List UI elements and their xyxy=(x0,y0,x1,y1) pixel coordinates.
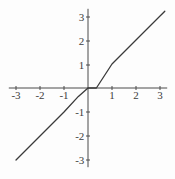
y-tick-label: -1 xyxy=(75,107,84,118)
y-tick-label: -2 xyxy=(75,131,84,142)
curve-y-equals-x xyxy=(16,11,165,160)
y-tick-label: 3 xyxy=(79,12,84,23)
y-tick-label: 2 xyxy=(79,36,84,47)
x-tick-label: 3 xyxy=(157,90,162,101)
x-tick-label: -3 xyxy=(12,90,21,101)
graph-figure: -3 -2 -1 1 2 3 3 2 1 -1 -2 -3 xyxy=(0,0,175,179)
x-tick-label: 1 xyxy=(109,90,114,101)
x-tick-label: -2 xyxy=(36,90,45,101)
y-tick-label: 1 xyxy=(79,60,84,71)
x-tick-label: -1 xyxy=(60,90,69,101)
x-tick-label: 2 xyxy=(133,90,138,101)
plot-canvas xyxy=(0,0,175,179)
y-tick-label: -3 xyxy=(75,155,84,166)
